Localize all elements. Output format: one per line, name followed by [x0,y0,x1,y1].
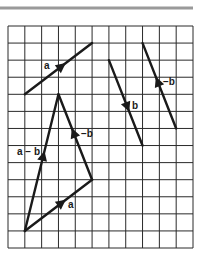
vector-label: −b [163,76,175,87]
vector-label: a [44,60,50,71]
vector-label: a − b [17,146,40,157]
vector-label: b [132,100,138,111]
grid [8,26,193,248]
vectors [25,43,176,231]
vector-label: a [68,199,74,210]
vector-label: −b [81,128,93,139]
vector-diagram: ab−ba−ba − b [0,0,202,262]
